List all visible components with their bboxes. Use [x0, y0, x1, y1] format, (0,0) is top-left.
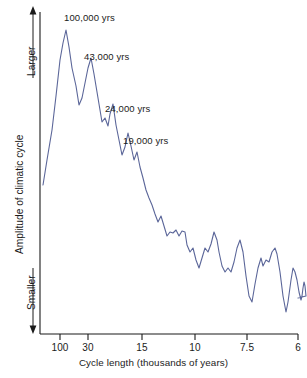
- arrow-down-icon: [30, 326, 37, 335]
- climate-spectrum-plot: [0, 0, 307, 378]
- x-tick-label-30: 30: [72, 342, 104, 353]
- x-tick-label-15: 15: [126, 342, 158, 353]
- y-axis-title: Amplitude of climatic cycle: [14, 135, 25, 254]
- y-axis-larger-label: Larger: [26, 47, 37, 76]
- y-axis-smaller-label: Smaller: [26, 275, 37, 310]
- spectrum-curve: [43, 30, 306, 312]
- x-tick-label-10: 10: [179, 342, 211, 353]
- annotation-19000-yrs: 19,000 yrs: [123, 136, 168, 146]
- arrow-up-icon: [30, 6, 37, 15]
- chart-figure: Amplitude of climatic cycle Larger Small…: [0, 0, 307, 378]
- x-tick-label-7.5: 7.5: [231, 342, 263, 353]
- x-axis-title: Cycle length (thousands of years): [0, 358, 307, 369]
- annotation-24000-yrs: 24,000 yrs: [105, 104, 150, 114]
- annotation-43000-yrs: 43,000 yrs: [84, 52, 129, 62]
- x-tick-label-6: 6: [282, 342, 307, 353]
- annotation-100000-yrs: 100,000 yrs: [64, 13, 115, 23]
- axis-frame: [40, 12, 298, 334]
- x-axis-ticks: [60, 334, 298, 340]
